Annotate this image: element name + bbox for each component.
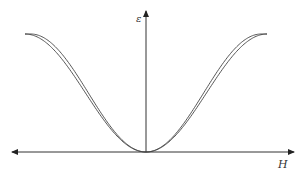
strain-field-diagram: ε H [0, 0, 301, 178]
y-axis-label: ε [136, 13, 141, 24]
x-axis-label: H [277, 158, 288, 171]
